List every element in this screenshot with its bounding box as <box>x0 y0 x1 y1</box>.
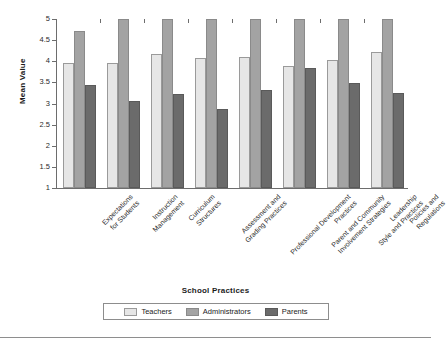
bar-group <box>151 19 184 188</box>
x-axis-tick-label: Expectationsfor Students <box>101 193 141 233</box>
legend-label: Parents <box>282 307 308 316</box>
legend-label: Administrators <box>203 307 251 316</box>
y-axis-tick-mark <box>52 40 56 41</box>
y-axis-tick-label: 3.5 <box>40 76 50 87</box>
legend-swatch <box>265 308 278 316</box>
bar-group <box>283 19 316 188</box>
y-axis-tick-label: 4 <box>46 55 50 66</box>
x-axis-tick-label: CurriculumStructures <box>187 193 223 229</box>
y-axis-tick-label: 2 <box>46 140 50 151</box>
bar-teachers[interactable] <box>63 63 74 188</box>
bar-parents[interactable] <box>217 109 228 188</box>
y-axis-tick-label: 2.5 <box>40 119 50 130</box>
bar-administrators[interactable] <box>162 19 173 188</box>
legend-swatch <box>124 308 137 316</box>
footer-divider <box>0 337 431 338</box>
legend-entry-administrators[interactable]: Administrators <box>186 307 251 316</box>
x-axis-tick-mark <box>320 19 321 23</box>
y-axis-tick-mark <box>52 61 56 62</box>
bar-teachers[interactable] <box>327 60 338 188</box>
bar-parents[interactable] <box>129 101 140 188</box>
x-axis-line <box>56 188 408 189</box>
y-axis-tick-label: 1.5 <box>40 161 50 172</box>
y-axis-tick-label: 3 <box>46 98 50 109</box>
x-axis-tick-mark <box>232 19 233 23</box>
x-axis-tick-mark <box>144 19 145 23</box>
y-axis-title: Mean Value <box>18 58 27 104</box>
y-axis-tick-mark <box>52 19 56 20</box>
y-axis-tick-label: 5 <box>46 13 50 24</box>
x-axis-tick-label: Assessment andGrading Practices <box>237 193 288 244</box>
bar-administrators[interactable] <box>118 19 129 188</box>
bar-parents[interactable] <box>85 85 96 188</box>
x-axis-tick-mark <box>100 19 101 23</box>
plot-area: 54.543.532.521.51 <box>56 19 408 188</box>
y-axis-tick-mark <box>52 188 56 189</box>
legend-swatch <box>186 308 199 316</box>
y-axis-tick-mark <box>52 82 56 83</box>
bar-group <box>195 19 228 188</box>
bar-parents[interactable] <box>173 94 184 188</box>
chart-legend: TeachersAdministratorsParents <box>103 303 329 320</box>
bar-parents[interactable] <box>349 83 360 188</box>
bar-administrators[interactable] <box>74 31 85 188</box>
bar-administrators[interactable] <box>250 19 261 188</box>
x-axis-tick-label: InstructionManagement <box>145 193 186 234</box>
y-axis-tick-mark <box>52 167 56 168</box>
legend-entry-parents[interactable]: Parents <box>265 307 308 316</box>
bar-teachers[interactable] <box>371 52 382 188</box>
bar-group <box>239 19 272 188</box>
y-axis-tick-mark <box>52 104 56 105</box>
x-axis-tick-mark <box>276 19 277 23</box>
legend-entry-teachers[interactable]: Teachers <box>124 307 171 316</box>
bar-teachers[interactable] <box>283 66 294 188</box>
y-axis-tick-mark <box>52 125 56 126</box>
bar-teachers[interactable] <box>107 63 118 188</box>
bar-parents[interactable] <box>393 93 404 188</box>
bar-administrators[interactable] <box>338 19 349 188</box>
bar-group <box>107 19 140 188</box>
y-axis-tick-label: 4.5 <box>40 34 50 45</box>
bar-group <box>371 19 404 188</box>
bar-parents[interactable] <box>305 68 316 188</box>
legend-label: Teachers <box>141 307 171 316</box>
y-axis-tick-label: 1 <box>46 182 50 193</box>
bar-group <box>327 19 360 188</box>
y-axis-tick-mark <box>52 146 56 147</box>
bar-parents[interactable] <box>261 90 272 188</box>
bar-administrators[interactable] <box>382 19 393 188</box>
bar-group <box>63 19 96 188</box>
x-axis-tick-mark <box>364 19 365 23</box>
bar-teachers[interactable] <box>151 54 162 188</box>
bar-administrators[interactable] <box>294 19 305 188</box>
bar-teachers[interactable] <box>239 57 250 188</box>
bar-teachers[interactable] <box>195 58 206 188</box>
x-axis-tick-mark <box>188 19 189 23</box>
x-axis-title: School Practices <box>0 286 431 295</box>
bar-administrators[interactable] <box>206 19 217 188</box>
